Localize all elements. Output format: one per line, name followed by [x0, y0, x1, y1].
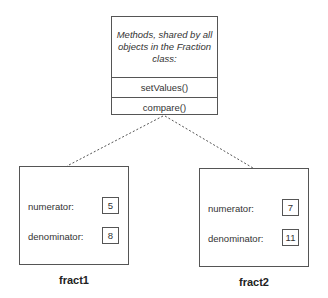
method-compare: compare() — [112, 97, 217, 117]
field-label-denominator: denominator: — [28, 231, 83, 242]
object-name-fract1: fract1 — [19, 274, 129, 286]
class-methods-box: Methods, shared by all objects in the Fr… — [111, 16, 218, 115]
field-label-denominator: denominator: — [208, 233, 263, 244]
field-value-numerator: 7 — [282, 199, 299, 216]
field-value-denominator: 8 — [102, 227, 119, 244]
object-box-fract1: numerator: 5 denominator: 8 — [19, 166, 129, 265]
object-name-fract2: fract2 — [199, 276, 309, 288]
field-value-numerator: 5 — [102, 197, 119, 214]
field-label-numerator: numerator: — [28, 201, 74, 212]
field-value-denominator: 11 — [282, 229, 299, 246]
field-label-numerator: numerator: — [208, 203, 254, 214]
class-description: Methods, shared by all objects in the Fr… — [112, 17, 217, 77]
method-setvalues: setValues() — [112, 77, 217, 97]
object-box-fract2: numerator: 7 denominator: 11 — [199, 168, 309, 267]
